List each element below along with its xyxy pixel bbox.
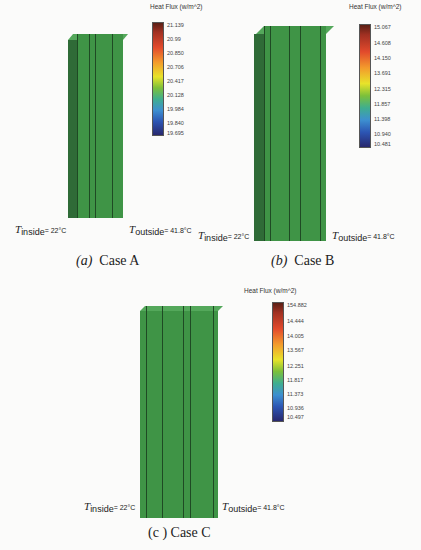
legend-tick: 20.417: [167, 78, 184, 84]
legend-tick: 12.251: [287, 363, 304, 369]
legend-tick: 10.940: [374, 131, 391, 137]
caption-case-c: (c ) Case C: [148, 525, 211, 541]
caption-case-a: (a) Case A: [76, 253, 139, 269]
t-inside-label: Tinside= 22°C: [198, 229, 249, 243]
legend-tick: 10.936: [287, 405, 304, 411]
legend-tick: 14.444: [287, 318, 304, 324]
legend-tick: 20.128: [167, 92, 184, 98]
legend-tick: 19.840: [167, 120, 184, 126]
legend-tick: 13.691: [374, 70, 391, 76]
t-outside-label: Toutside= 41.8°C: [129, 223, 192, 237]
legend-tick: 20.706: [167, 64, 184, 70]
colorbar: [152, 22, 164, 136]
legend-tick: 21.139: [167, 22, 184, 28]
t-inside-label: Tinside= 22°C: [15, 223, 66, 237]
caption-case-b: (b) Case B: [271, 253, 334, 269]
legend-tick: 19.695: [167, 130, 184, 136]
legend-tick: 20.99: [167, 36, 181, 42]
legend-tick: 11.857: [374, 101, 390, 107]
legend-tick: 154.882: [287, 302, 307, 308]
legend-tick: 11.817: [287, 377, 303, 383]
colorbar: [359, 24, 371, 148]
legend-tick: 14.608: [374, 40, 391, 46]
legend-tick: 14.150: [374, 55, 391, 61]
t-inside-label: Tinside= 22°C: [84, 500, 135, 514]
legend-title: Heat Flux (w/m^2): [349, 3, 402, 10]
legend-tick: 20.850: [167, 50, 184, 56]
legend-tick: 13.567: [287, 347, 304, 353]
legend-tick: 11.373: [287, 391, 303, 397]
legend-title: Heat Flux (w/m^2): [150, 3, 203, 10]
legend-tick: 10.497: [287, 414, 304, 420]
legend-tick: 12.315: [374, 86, 391, 92]
legend-tick: 15.067: [374, 24, 391, 30]
colorbar: [272, 302, 284, 422]
legend-tick: 19.984: [167, 106, 184, 112]
t-outside-label: Toutside= 41.8°C: [222, 500, 285, 514]
legend-title: Heat Flux (w/m^2): [244, 287, 297, 294]
legend-tick: 10.481: [374, 141, 391, 147]
t-outside-label: Toutside= 41.8°C: [332, 229, 395, 243]
legend-tick: 14.005: [287, 333, 304, 339]
legend-tick: 11.398: [374, 116, 390, 122]
